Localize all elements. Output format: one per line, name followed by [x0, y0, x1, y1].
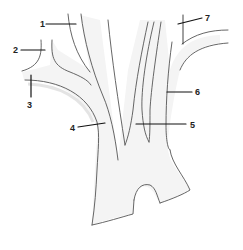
label-4: 4: [70, 123, 75, 133]
label-6: 6: [195, 87, 200, 97]
label-3: 3: [27, 100, 32, 110]
label-5: 5: [190, 120, 195, 130]
label-7: 7: [205, 13, 210, 23]
label-2: 2: [13, 45, 18, 55]
vessel-diagram: 1 2 3 4 5 6 7: [0, 0, 243, 250]
branch-2-left-edge: [22, 40, 41, 71]
leader-7: [178, 18, 202, 24]
label-1: 1: [40, 19, 45, 29]
